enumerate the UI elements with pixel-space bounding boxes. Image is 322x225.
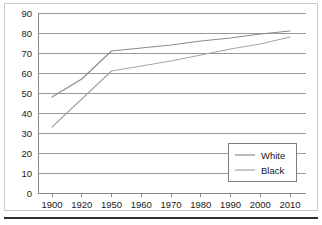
screenshot-root: 0102030405060708090 19001920195019601970…	[0, 0, 322, 225]
legend-label-black: Black	[261, 165, 284, 176]
y-tick-label-70: 70	[21, 48, 32, 59]
x-tick-label-1970: 1970	[160, 199, 181, 210]
y-tick-label-0: 0	[27, 188, 32, 199]
y-tick-label-20: 20	[21, 148, 32, 159]
x-tick-label-1950: 1950	[101, 199, 122, 210]
y-tick-label-60: 60	[21, 68, 32, 79]
x-tick-label-1960: 1960	[131, 199, 152, 210]
bottom-divider-rule	[4, 217, 318, 219]
y-tick-label-10: 10	[21, 168, 32, 179]
x-tick-label-1990: 1990	[220, 199, 241, 210]
line-chart: 0102030405060708090 19001920195019601970…	[0, 0, 322, 212]
chart-legend: WhiteBlack	[228, 143, 296, 181]
chart-canvas: 0102030405060708090 19001920195019601970…	[0, 0, 322, 212]
x-tick-label-1980: 1980	[190, 199, 211, 210]
y-tick-label-90: 90	[21, 8, 32, 19]
y-tick-label-40: 40	[21, 108, 32, 119]
x-axis-tick-labels: 190019201950196019701980199020002010	[41, 199, 300, 210]
x-axis-tick-marks	[52, 193, 290, 197]
x-tick-label-2010: 2010	[279, 199, 300, 210]
x-tick-label-1900: 1900	[41, 199, 62, 210]
y-tick-label-30: 30	[21, 128, 32, 139]
x-tick-label-1920: 1920	[71, 199, 92, 210]
y-tick-label-50: 50	[21, 88, 32, 99]
x-tick-label-2000: 2000	[250, 199, 271, 210]
legend-label-white: White	[261, 150, 285, 161]
y-axis-tick-labels: 0102030405060708090	[21, 8, 32, 199]
y-tick-label-80: 80	[21, 28, 32, 39]
series-line-white	[52, 31, 290, 97]
